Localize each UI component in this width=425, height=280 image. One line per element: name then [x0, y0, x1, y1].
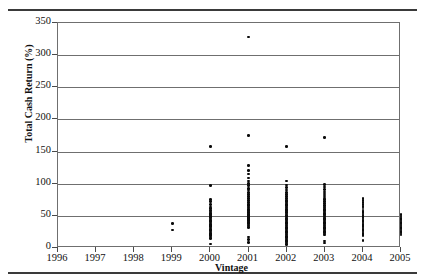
y-axis-tick-label: 300 [11, 47, 51, 58]
gridline [58, 216, 399, 217]
gridline [58, 55, 399, 56]
data-point [247, 173, 250, 176]
top-page-rule [8, 9, 417, 11]
plot-area [57, 22, 400, 247]
y-axis-tick-label: 200 [11, 111, 51, 122]
data-point [209, 237, 212, 240]
data-point [285, 180, 288, 183]
gridline [58, 87, 399, 88]
y-axis-tick-label: 100 [11, 176, 51, 187]
gridline [58, 119, 399, 120]
data-point [323, 234, 326, 237]
data-point [247, 177, 250, 180]
data-point [171, 229, 174, 232]
data-point [171, 222, 174, 225]
y-axis-tick-label: 0 [11, 240, 51, 251]
gridline [58, 152, 399, 153]
data-point [362, 239, 365, 242]
x-axis-title-text: Vintage [215, 262, 248, 273]
data-point [209, 184, 212, 187]
data-point [247, 134, 250, 137]
y-axis-tick-label: 250 [11, 79, 51, 90]
data-point [285, 145, 288, 148]
data-point [323, 242, 326, 245]
x-axis-title: Vintage [0, 262, 425, 273]
scatter-chart-figure: Total Cash Return (%) 050100150200250300… [0, 0, 425, 280]
data-point [285, 243, 288, 246]
data-point [209, 145, 212, 148]
y-axis-tick-label: 150 [11, 144, 51, 155]
data-point [247, 164, 250, 167]
data-point [323, 136, 326, 139]
data-point [400, 234, 403, 237]
data-point [247, 226, 250, 229]
data-point [209, 243, 212, 246]
data-point [247, 36, 250, 39]
y-axis-tick-label: 50 [11, 208, 51, 219]
data-point [247, 241, 250, 244]
y-axis-tick-label: 350 [11, 15, 51, 26]
data-point [247, 169, 250, 172]
data-point [362, 234, 365, 237]
gridline [58, 184, 399, 185]
